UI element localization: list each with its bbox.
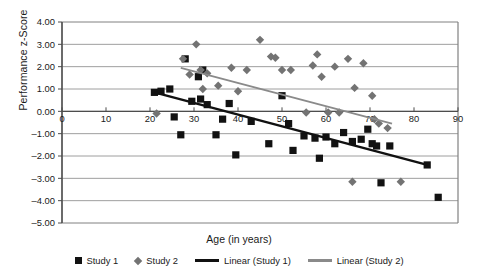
- data-point-study-2: [344, 55, 352, 63]
- data-point-study-1: [212, 131, 219, 138]
- data-point-study-2: [256, 36, 264, 44]
- data-point-study-1: [195, 73, 202, 80]
- data-point-study-2: [199, 85, 207, 93]
- legend-item-study-2: Study 2: [135, 255, 178, 266]
- x-tick-label: 90: [453, 113, 463, 124]
- legend-label-linear-study-1: Linear (Study 1): [224, 255, 291, 266]
- x-tick-label: 20: [145, 113, 155, 124]
- data-point-study-1: [219, 116, 226, 123]
- data-point-study-1: [377, 179, 384, 186]
- x-tick-label: 30: [189, 113, 199, 124]
- data-point-study-2: [383, 124, 391, 132]
- data-point-study-1: [316, 155, 323, 162]
- data-point-study-1: [171, 113, 178, 120]
- x-tick-label: 80: [409, 113, 419, 124]
- data-point-study-1: [265, 140, 272, 147]
- x-tick-label: 0: [59, 113, 64, 124]
- data-point-study-1: [373, 142, 380, 149]
- x-tick-label: 10: [101, 113, 111, 124]
- data-point-study-1: [289, 147, 296, 154]
- legend-label-study-1: Study 1: [87, 255, 119, 266]
- y-tick-label: –2.00: [32, 150, 55, 161]
- dark-line-icon: [195, 259, 219, 262]
- diamond-marker-icon: [134, 256, 142, 264]
- data-point-study-2: [192, 40, 200, 48]
- x-axis-title: Age (in years): [0, 233, 478, 245]
- legend-label-linear-study-2: Linear (Study 2): [337, 255, 404, 266]
- y-tick-label: 4.00: [37, 16, 55, 27]
- gray-line-icon: [308, 259, 332, 261]
- y-tick-label: –4.00: [32, 195, 55, 206]
- data-point-study-2: [350, 84, 358, 92]
- data-point-study-2: [331, 62, 339, 70]
- legend-item-linear-study-2: Linear (Study 2): [308, 255, 404, 266]
- y-tick-label: 3.00: [37, 39, 55, 50]
- data-point-study-1: [285, 120, 292, 127]
- data-point-study-2: [309, 61, 317, 69]
- data-point-study-2: [313, 50, 321, 58]
- data-point-study-1: [340, 129, 347, 136]
- data-point-study-1: [197, 95, 204, 102]
- legend-item-linear-study-1: Linear (Study 1): [195, 255, 291, 266]
- data-point-study-1: [386, 142, 393, 149]
- data-point-study-1: [364, 126, 371, 133]
- data-point-study-2: [368, 92, 376, 100]
- data-point-study-1: [232, 151, 239, 158]
- data-point-study-2: [317, 73, 325, 81]
- y-tick-label: 2.00: [37, 61, 55, 72]
- data-point-study-2: [302, 108, 310, 116]
- legend-item-study-1: Study 1: [75, 255, 119, 266]
- square-marker-icon: [75, 257, 82, 264]
- scatter-chart: Performance z-Score 4.003.002.001.000.00…: [0, 0, 478, 279]
- data-point-study-2: [227, 64, 235, 72]
- legend-label-study-2: Study 2: [146, 255, 178, 266]
- data-point-study-1: [435, 194, 442, 201]
- data-point-study-1: [166, 85, 173, 92]
- chart-legend: Study 1 Study 2 Linear (Study 1) Linear …: [0, 255, 478, 266]
- y-tick-label: 1.00: [37, 83, 55, 94]
- y-tick-label: –5.00: [32, 217, 55, 228]
- y-tick-label: 0.00: [37, 106, 55, 117]
- y-tick-label: –3.00: [32, 173, 55, 184]
- data-point-study-1: [177, 131, 184, 138]
- data-point-study-2: [234, 87, 242, 95]
- data-point-study-1: [358, 136, 365, 143]
- data-point-study-1: [226, 100, 233, 107]
- y-tick-label: –1.00: [32, 128, 55, 139]
